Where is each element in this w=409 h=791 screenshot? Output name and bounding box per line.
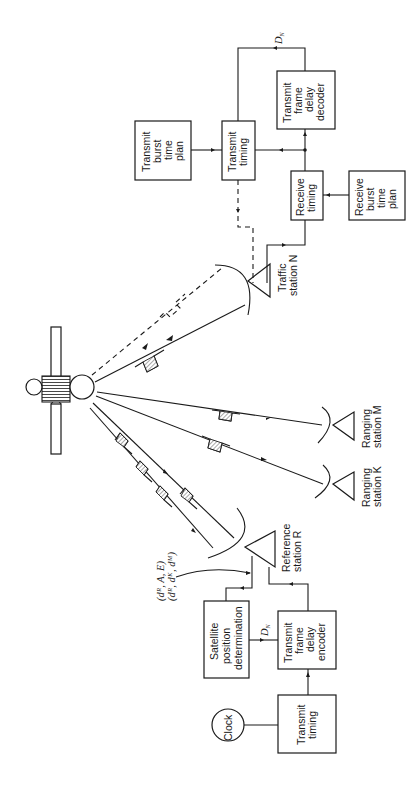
clock-label: Clock — [222, 714, 234, 741]
dn-signal-label-bottom: DN — [259, 623, 271, 637]
reference-station-r-antenna-icon — [208, 508, 275, 567]
tdma-synchronization-diagram: Traffic station N Ranging station M Rang… — [0, 0, 409, 791]
beam-ranging-m — [97, 392, 322, 425]
satellite-icon — [26, 327, 94, 454]
reference-station-r-label: Reference station R — [280, 521, 303, 572]
ranging-station-k-antenna-icon — [315, 465, 354, 500]
traffic-station-n-antenna-icon — [215, 264, 270, 315]
beam-ranging-k — [96, 396, 323, 484]
beam-traffic-n — [92, 268, 245, 382]
ranging-station-k-label: Ranging station K — [360, 465, 383, 507]
traffic-station-n-label: Traffic station N — [276, 255, 299, 296]
dn-signal-label-top: DN — [273, 31, 285, 45]
ranging-station-m-label: Ranging station M — [360, 405, 383, 448]
ranging-station-m-antenna-icon — [318, 407, 354, 443]
beam-reference-r — [90, 403, 234, 548]
params-label: (dᴿ, A, E) (dᴿ, dᴷ, dᴹ) — [155, 552, 178, 601]
